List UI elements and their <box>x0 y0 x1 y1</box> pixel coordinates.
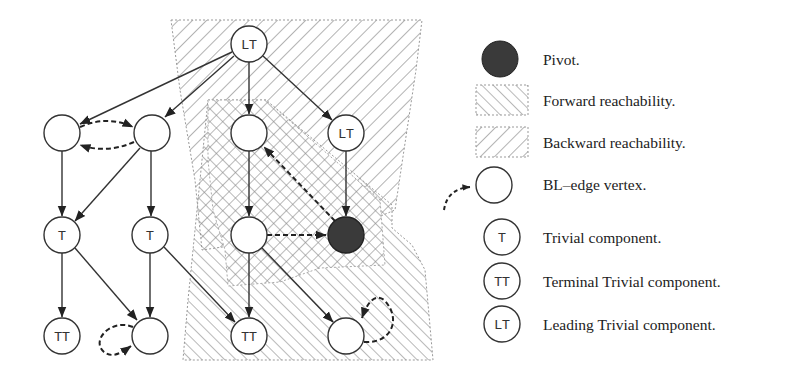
legend-label-pivot: Pivot. <box>543 51 580 68</box>
edge-b-to-t1 <box>75 148 140 221</box>
leading-trivial-icon-text: LT <box>494 317 510 332</box>
svg-text:LT: LT <box>241 37 257 52</box>
node-t2[interactable]: T <box>132 217 168 253</box>
edge-a-to-b-curve <box>80 121 133 127</box>
node-b[interactable] <box>134 115 170 151</box>
trivial-icon-text: T <box>498 230 506 245</box>
svg-text:T: T <box>146 228 154 243</box>
edge-t1-to-e <box>75 248 137 320</box>
svg-text:LT: LT <box>338 126 354 141</box>
edge-e-self-loop <box>100 325 133 355</box>
legend-label-backward: Backward reachability. <box>543 134 686 151</box>
bl-edge-vertex-icon <box>476 167 512 203</box>
node-f[interactable] <box>328 318 364 354</box>
legend-item-backward: Backward reachability. <box>476 127 686 157</box>
svg-text:TT: TT <box>54 329 70 344</box>
legend-item-bl-edge: BL–edge vertex. <box>444 167 646 210</box>
terminal-trivial-icon-text: TT <box>494 274 510 289</box>
legend-item-pivot: Pivot. <box>482 41 580 77</box>
bl-edge-dashed-arrow-icon <box>444 187 470 210</box>
node-d[interactable] <box>231 217 267 253</box>
node-t1[interactable]: T <box>44 217 80 253</box>
legend-label-terminal-trivial: Terminal Trivial component. <box>543 273 721 290</box>
legend-item-trivial: T Trivial component. <box>484 219 661 255</box>
legend-label-leading-trivial: Leading Trivial component. <box>543 316 716 333</box>
edge-b-to-a-curve <box>80 142 134 149</box>
node-e[interactable] <box>132 318 168 354</box>
legend-label-trivial: Trivial component. <box>543 229 661 246</box>
node-lt-top[interactable]: LT <box>231 26 267 62</box>
backward-hatch-icon <box>476 127 528 157</box>
node-a[interactable] <box>44 115 80 151</box>
legend-item-leading-trivial: LT Leading Trivial component. <box>484 306 716 342</box>
node-c[interactable] <box>231 115 267 151</box>
svg-text:T: T <box>58 228 66 243</box>
legend-item-terminal-trivial: TT Terminal Trivial component. <box>484 263 721 299</box>
node-tt1[interactable]: TT <box>44 318 80 354</box>
legend: Pivot. Forward reachability. Backward re… <box>444 41 721 342</box>
pivot-icon <box>482 41 518 77</box>
legend-label-bl-edge: BL–edge vertex. <box>543 176 646 193</box>
graph-diagram: LT LT T T TT <box>0 0 803 379</box>
node-tt2[interactable]: TT <box>231 318 267 354</box>
svg-text:TT: TT <box>241 329 257 344</box>
node-lt-right[interactable]: LT <box>328 115 364 151</box>
forward-hatch-icon <box>476 85 528 115</box>
node-pivot[interactable] <box>328 217 364 253</box>
legend-item-forward: Forward reachability. <box>476 85 675 115</box>
legend-label-forward: Forward reachability. <box>543 92 675 109</box>
